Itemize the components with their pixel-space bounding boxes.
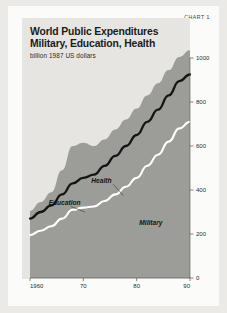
chart-page: CHART 1 World Public Expenditures Milita… [0,0,227,313]
series-annotation-label: Education [49,199,81,206]
x-axis-tick-label: 1960 [30,283,44,289]
chart-svg: 02004006008001000 1960708090 EducationHe… [0,0,227,313]
x-axis-tick-label: 70 [80,283,87,289]
x-axis-tick-label: 80 [133,283,140,289]
y-axis-tick-label: 200 [196,231,207,237]
y-axis-tick-label: 600 [196,143,207,149]
x-axis: 1960708090 [30,278,191,289]
y-axis: 02004006008001000 [190,55,210,281]
stacked-area-group [30,50,190,278]
series-annotation-label: Health [91,177,111,184]
chart-plot-area: 02004006008001000 1960708090 EducationHe… [0,0,227,313]
y-axis-tick-label: 1000 [196,55,210,61]
y-axis-tick-label: 800 [196,99,207,105]
series-annotation-label: Military [139,219,162,227]
y-axis-tick-label: 400 [196,187,207,193]
area-total-fill [30,50,190,278]
y-axis-tick-label: 0 [196,275,200,281]
x-axis-tick-label: 90 [183,283,190,289]
